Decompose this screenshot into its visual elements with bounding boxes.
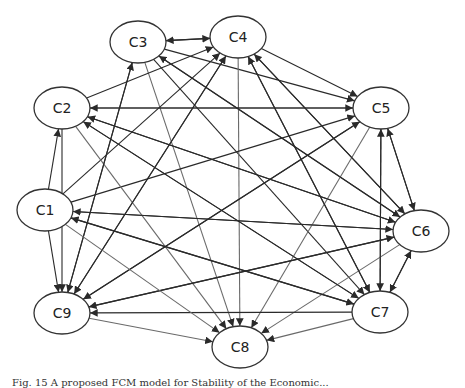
edge-c9-to-c6 — [89, 237, 394, 307]
node-c8: C8 — [212, 326, 268, 368]
node-label: C6 — [412, 223, 431, 239]
node-c3: C3 — [110, 21, 166, 63]
node-label: C5 — [372, 100, 391, 116]
node-c5: C5 — [353, 87, 409, 129]
edge-c4-to-c8 — [238, 58, 240, 326]
figure-caption: Fig. 15 A proposed FCM model for Stabili… — [12, 377, 329, 388]
node-c1: C1 — [17, 189, 73, 231]
edge-c6-to-c2 — [87, 117, 395, 223]
edge-c3-to-c4 — [166, 38, 210, 40]
edge-c4-to-c5 — [261, 49, 357, 97]
edge-c6-to-c5 — [388, 128, 415, 210]
edge-c3-to-c5 — [164, 49, 354, 101]
edge-c6-to-c4 — [254, 54, 405, 214]
edges-layer — [48, 38, 414, 341]
node-c9: C9 — [34, 292, 90, 334]
node-c7: C7 — [352, 291, 408, 333]
node-label: C9 — [53, 305, 72, 321]
edge-c7-to-c2 — [83, 122, 358, 299]
node-label: C1 — [36, 202, 55, 218]
node-c2: C2 — [34, 87, 90, 129]
edge-c9-to-c8 — [89, 318, 213, 342]
node-label: C3 — [129, 34, 148, 50]
node-c6: C6 — [393, 210, 449, 252]
edge-c7-to-c1 — [71, 218, 354, 304]
edge-c7-to-c6 — [390, 251, 411, 293]
node-label: C8 — [231, 339, 250, 355]
edge-c1-to-c2 — [48, 129, 58, 189]
edge-c1-to-c9 — [48, 231, 58, 292]
node-c4: C4 — [210, 16, 266, 58]
edge-c7-to-c5 — [380, 129, 381, 291]
edge-c3-to-c8 — [145, 62, 233, 326]
node-label: C7 — [371, 304, 390, 320]
node-label: C2 — [53, 100, 72, 116]
node-label: C4 — [229, 29, 248, 45]
edge-c7-to-c9 — [90, 312, 352, 313]
